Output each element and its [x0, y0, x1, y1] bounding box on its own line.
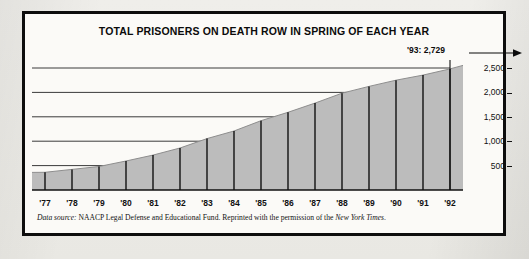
y-tick-dash	[507, 68, 512, 69]
x-tick-80: '80	[120, 198, 131, 208]
source-note: Data source: NAACP Legal Defense and Edu…	[37, 213, 491, 222]
x-tick-86: '86	[282, 198, 293, 208]
callout-label: '93: 2,729	[407, 45, 445, 55]
y-tick-dash	[507, 93, 512, 94]
x-tick-92: '92	[444, 198, 455, 208]
x-tick-83: '83	[201, 198, 212, 208]
y-tick-dash	[507, 166, 512, 167]
x-tick-90: '90	[390, 198, 401, 208]
x-tick-89: '89	[363, 198, 374, 208]
plot-area	[32, 60, 472, 193]
x-tick-79: '79	[93, 198, 104, 208]
callout-arrow-icon	[469, 47, 523, 59]
x-tick-78: '78	[66, 198, 77, 208]
source-publication: New York Times	[335, 213, 384, 222]
y-tick-1500: 1,500	[472, 112, 512, 122]
x-tick-91: '91	[417, 198, 428, 208]
source-prefix: Data source:	[37, 213, 77, 222]
chart-title: TOTAL PRISONERS ON DEATH ROW IN SPRING O…	[25, 25, 503, 37]
y-tick-2000: 2,000	[472, 87, 512, 97]
source-body: NAACP Legal Defense and Educational Fund…	[78, 213, 333, 222]
x-tick-81: '81	[147, 198, 158, 208]
area-chart-svg	[32, 60, 472, 193]
y-tick-1000: 1,000	[472, 136, 512, 146]
y-tick-dash	[507, 117, 512, 118]
figure-frame: TOTAL PRISONERS ON DEATH ROW IN SPRING O…	[22, 11, 506, 236]
y-tick-2500: 2,500	[472, 63, 512, 73]
x-tick-85: '85	[255, 198, 266, 208]
source-end: .	[384, 213, 386, 222]
area-series-path	[32, 65, 463, 190]
x-axis-labels: '77 '78 '79 '80 '81 '82 '83 '84 '85 '86 …	[32, 198, 472, 214]
x-tick-87: '87	[309, 198, 320, 208]
y-tick-500: 500	[472, 161, 512, 171]
y-tick-dash	[507, 141, 512, 142]
y-axis-labels: 2,500 2,000 1,500 1,000 500	[472, 60, 518, 193]
x-tick-82: '82	[174, 198, 185, 208]
x-tick-88: '88	[336, 198, 347, 208]
x-tick-77: '77	[39, 198, 50, 208]
x-tick-84: '84	[228, 198, 239, 208]
